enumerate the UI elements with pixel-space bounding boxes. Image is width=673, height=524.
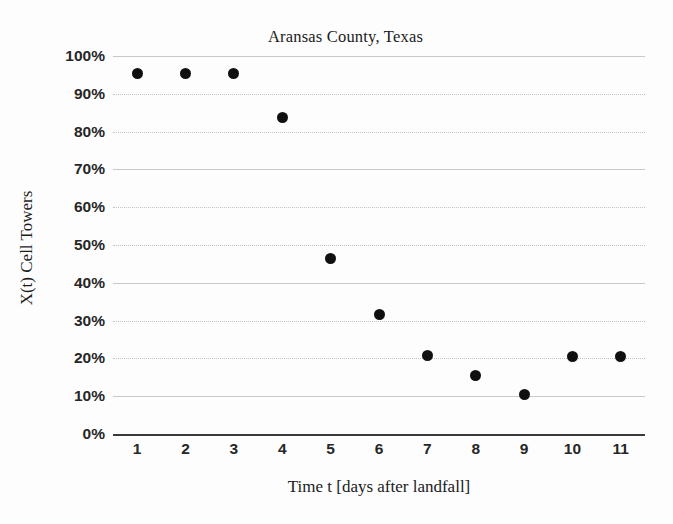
y-axis-tick-labels: 100%90%80%70%60%50%40%30%20%10%0%	[47, 56, 105, 434]
y-axis-tick-label: 80%	[47, 123, 105, 141]
x-axis-tick-label: 11	[601, 440, 641, 458]
y-axis-tick-label: 10%	[47, 387, 105, 405]
x-axis-tick-label: 4	[262, 440, 302, 458]
x-axis-tick-label: 6	[359, 440, 399, 458]
y-axis-tick-label: 20%	[47, 349, 105, 367]
data-point	[325, 253, 336, 264]
gridline	[113, 321, 645, 322]
data-point	[180, 68, 191, 79]
gridline	[113, 169, 645, 170]
x-axis-tick-label: 5	[311, 440, 351, 458]
x-axis-tick-label: 9	[504, 440, 544, 458]
y-axis-tick-label: 50%	[47, 236, 105, 254]
data-point	[422, 350, 433, 361]
x-axis-title: Time t [days after landfall]	[113, 477, 645, 497]
y-axis-tick-label: 70%	[47, 160, 105, 178]
gridline	[113, 283, 645, 284]
plot-area	[113, 56, 645, 434]
chart-title: Aransas County, Texas	[0, 27, 673, 47]
x-axis-tick-labels: 1234567891011	[113, 440, 645, 466]
data-point	[228, 68, 239, 79]
data-point	[277, 112, 288, 123]
x-axis-tick-label: 2	[166, 440, 206, 458]
data-point	[519, 389, 530, 400]
y-axis-tick-label: 100%	[47, 47, 105, 65]
gridline	[113, 358, 645, 359]
x-axis-tick-label: 7	[407, 440, 447, 458]
y-axis-tick-label: 30%	[47, 312, 105, 330]
data-point	[132, 68, 143, 79]
gridline	[113, 207, 645, 208]
x-axis-tick-label: 10	[552, 440, 592, 458]
gridline	[113, 94, 645, 95]
chart-container: Aransas County, Texas X(t) Cell Towers T…	[0, 0, 673, 524]
x-axis-tick-label: 8	[456, 440, 496, 458]
x-axis-tick-label: 1	[117, 440, 157, 458]
gridline	[113, 56, 645, 57]
x-axis-tick-label: 3	[214, 440, 254, 458]
y-axis-tick-label: 60%	[47, 198, 105, 216]
data-point	[615, 351, 626, 362]
data-point	[567, 351, 578, 362]
gridline	[113, 245, 645, 246]
y-axis-title: X(t) Cell Towers	[17, 143, 37, 353]
gridline	[113, 396, 645, 397]
y-axis-tick-label: 90%	[47, 85, 105, 103]
x-axis-line	[113, 434, 645, 436]
y-axis-tick-label: 40%	[47, 274, 105, 292]
data-point	[374, 309, 385, 320]
y-axis-tick-label: 0%	[47, 425, 105, 443]
data-point	[470, 370, 481, 381]
gridline	[113, 132, 645, 133]
